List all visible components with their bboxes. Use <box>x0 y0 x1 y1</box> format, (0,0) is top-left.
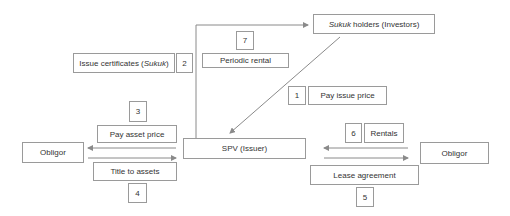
step-4-number: 4 <box>128 183 147 203</box>
step-7-number: 7 <box>236 31 254 50</box>
sukuk-italic-label: Sukuk <box>329 20 351 29</box>
sukuk-holders-node: Sukuk holders (Investors) <box>313 14 435 34</box>
obligor-right-node: Obligor <box>420 142 489 164</box>
step-5-number: 5 <box>356 187 374 207</box>
step-1-label: Pay issue price <box>308 86 387 105</box>
step-5-label: Lease agreement <box>310 165 419 185</box>
step-1-number: 1 <box>288 86 306 105</box>
step-7-label: Periodic rental <box>202 53 289 68</box>
spv-issuer-node: SPV (Issuer) <box>183 138 306 159</box>
step-6-label: Rentals <box>364 123 404 143</box>
investors-label: holders (Investors) <box>351 20 419 29</box>
step-4-label: Title to assets <box>93 162 177 181</box>
step-2-label: Issue certificates (Sukuk) <box>73 53 175 73</box>
step-3-label: Pay asset price <box>97 125 177 143</box>
step-6-number: 6 <box>345 123 362 143</box>
step-3-number: 3 <box>129 101 147 122</box>
step-2-number: 2 <box>176 53 193 73</box>
obligor-left-node: Obligor <box>22 142 84 163</box>
